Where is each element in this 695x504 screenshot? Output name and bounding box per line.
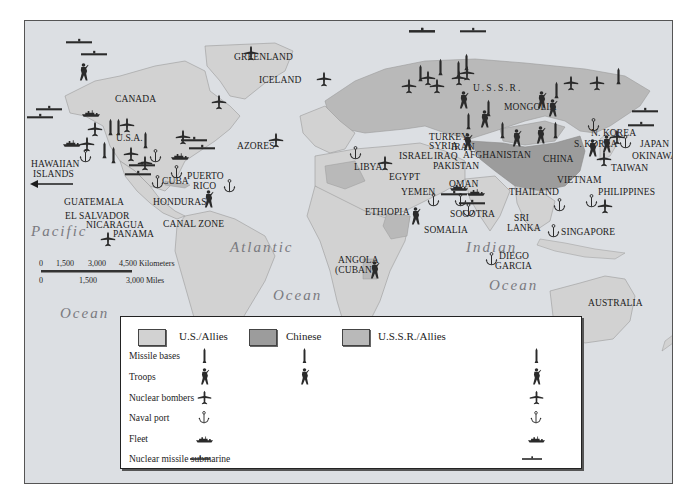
missile-icon (438, 58, 443, 76)
legend-box: U.S./Allies Chinese U.S.S.R./Allies Miss… (120, 316, 582, 469)
label-china: CHINA (543, 154, 574, 164)
bomber-icon (459, 65, 475, 81)
bomber-icon (119, 117, 135, 133)
scale-km-4500: 4,500 Kilometers (119, 259, 175, 268)
scale-mi-3000: 3,000 Miles (126, 276, 164, 285)
label-islands: ISLANDS (33, 169, 74, 179)
fleet-icon (194, 431, 214, 447)
legend-header-chinese: Chinese (286, 330, 321, 342)
pacific-ocean-label-2: Ocean (60, 305, 109, 322)
soldier-icon (511, 129, 522, 147)
indian-ocean-label-2: Ocean (489, 277, 538, 294)
bomber-icon (596, 151, 612, 167)
soldier-icon (462, 133, 473, 151)
bomber-icon (211, 94, 227, 110)
soldier-icon (369, 261, 380, 279)
submarine-icon (460, 27, 486, 33)
missile-icon (554, 81, 559, 99)
label-hawaiian: HAWAIIAN (31, 159, 80, 169)
missile-icon (143, 131, 148, 149)
anchor-icon (585, 194, 598, 208)
bomber-icon (401, 78, 417, 94)
anchor-icon (526, 409, 546, 425)
pacific-ocean-label: Pacific (31, 223, 87, 240)
label-guatemala: GUATEMALA (64, 197, 124, 207)
anchor-icon (462, 203, 475, 217)
bomber-icon (597, 198, 613, 214)
submarine-icon (522, 450, 542, 466)
soldier-icon (479, 110, 490, 128)
anchor-icon (349, 146, 362, 160)
soldier-icon (601, 135, 612, 153)
missile-icon (526, 347, 546, 363)
label-australia: AUSTRALIA (588, 298, 643, 308)
missile-icon (466, 112, 471, 130)
label-garcia: GARCIA (495, 261, 532, 271)
bomber-icon (87, 121, 103, 137)
label-vietnam: VIETNAM (557, 175, 602, 185)
soldier-icon (547, 99, 558, 117)
scale-km-1500: 1,500 (56, 259, 74, 268)
label-sri: SRI (514, 213, 529, 223)
soldier-icon (535, 126, 546, 144)
submarine-icon (409, 27, 435, 33)
anchor-icon (547, 224, 560, 238)
bomber-icon (316, 71, 332, 87)
submarine-icon (66, 38, 92, 44)
bomber-icon (589, 75, 605, 91)
atlantic-ocean-label: Atlantic (230, 239, 294, 256)
legend-swatch-us-allies (138, 329, 166, 346)
label-okinawa: OKINAWA (632, 151, 673, 161)
missile-icon (500, 121, 505, 139)
submarine-icon (189, 144, 215, 150)
missile-icon (616, 67, 621, 85)
scale-km-0: 0 (39, 259, 43, 268)
anchor-icon (79, 149, 92, 163)
atlantic-ocean-label-2: Ocean (273, 287, 322, 304)
legend-row-missile-bases: Missile bases (129, 351, 180, 361)
label-philippines: PHILIPPINES (598, 187, 655, 197)
fleet-icon (467, 189, 485, 196)
soldier-icon (294, 368, 314, 384)
legend-row-troops: Troops (129, 372, 156, 382)
scale-mi-1500: 1,500 (79, 276, 97, 285)
missile-icon (102, 141, 107, 159)
scale-km-3000: 3,000 (88, 259, 106, 268)
soldier-icon (410, 207, 421, 225)
label-diego: DIEGO (499, 251, 529, 261)
label-ethiopia: ETHIOPIA (365, 207, 410, 217)
anchor-icon (170, 165, 183, 179)
anchor-icon (427, 193, 440, 207)
label-iraq: IRAQ (434, 151, 458, 161)
legend-row-fleet: Fleet (129, 434, 148, 444)
submarine-icon (27, 113, 53, 119)
legend-header-ussr-allies: U.S.S.R./Allies (378, 330, 446, 342)
missile-icon (294, 347, 314, 363)
bomber-icon (100, 231, 116, 247)
label-somalia: SOMALIA (424, 225, 468, 235)
label-iceland: ICELAND (259, 75, 301, 85)
submarine-icon (81, 50, 107, 56)
legend-swatch-chinese (249, 329, 277, 346)
missile-icon (553, 121, 558, 139)
bomber-icon (563, 75, 579, 91)
bomber-icon (194, 389, 214, 405)
legend-header-us-allies: U.S./Allies (179, 330, 228, 342)
soldier-icon (78, 63, 89, 81)
fleet-icon (526, 431, 546, 447)
submarine-icon (190, 450, 210, 466)
anchor-icon (223, 179, 236, 193)
fleet-icon (82, 110, 100, 117)
missile-icon (108, 118, 113, 136)
legend-row-nuclear-bombers: Nuclear bombers (129, 393, 194, 403)
anchor-icon (485, 252, 498, 266)
scale-mi-0: 0 (39, 276, 43, 285)
bomber-icon (526, 389, 546, 405)
label-taiwan: TAIWAN (611, 163, 648, 173)
soldier-icon (536, 91, 547, 109)
anchor-icon (151, 175, 164, 189)
label-canada: CANADA (115, 94, 156, 104)
label-honduras: HONDURAS (153, 197, 207, 207)
anchor-icon (619, 135, 632, 149)
label-singapore: SINGAPORE (561, 227, 615, 237)
